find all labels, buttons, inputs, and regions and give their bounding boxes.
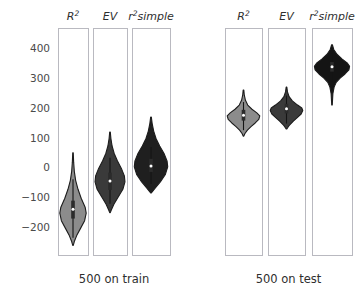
y-tick-label: 200 [30,102,50,114]
y-tick-label: 300 [30,72,50,84]
violin-median-marker [72,208,75,211]
panel-frame [226,29,263,256]
group-label-train: 500 on train [79,272,149,286]
y-tick-label: −200 [21,221,50,233]
violin-median-marker [242,114,245,117]
violin-median-marker [331,65,334,68]
y-tick-label: 0 [43,161,50,173]
chart-canvas: 4003002001000−100−200 R2EVr2simpleR2EVr2… [0,0,364,307]
column-header-ev: EV [103,10,119,23]
panel-frame [269,29,306,256]
y-tick-label: 400 [30,42,50,54]
y-tick-label: 100 [30,132,50,144]
column-header-ev: EV [279,10,295,23]
violin-plot-figure: 4003002001000−100−200 R2EVr2simpleR2EVr2… [0,0,364,307]
figure-background [0,0,364,307]
y-tick-label: −100 [21,191,50,203]
group-label-test: 500 on test [256,272,322,286]
violin-median-marker [150,164,153,167]
violin-median-marker [285,107,288,110]
violin-median-marker [109,179,112,182]
